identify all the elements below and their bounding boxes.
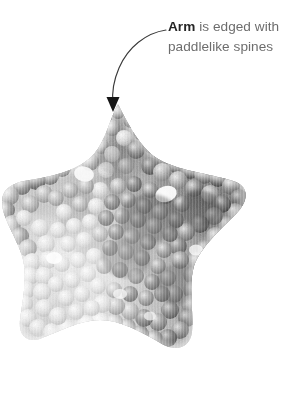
sea-star-image: [0, 98, 286, 368]
leader-curve: [113, 30, 166, 103]
annotation-callout: Arm is edged with paddlelike spines: [168, 17, 286, 56]
figure-canvas: Arm is edged with paddlelike spines: [0, 0, 286, 396]
annotation-term: Arm: [168, 19, 195, 34]
